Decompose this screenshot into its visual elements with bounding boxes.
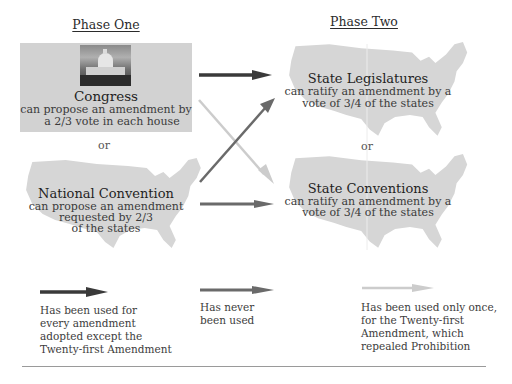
legend-medium-line: Has never — [200, 301, 300, 314]
legend-light-line: Has been used only once, — [361, 301, 511, 314]
legend-dark-line: adopted except the — [40, 330, 190, 343]
legend-arrow-medium — [200, 286, 274, 294]
legend-light-line: repealed Prohibition — [361, 340, 511, 353]
legend-light-line: for the Twenty-first — [361, 314, 511, 327]
arrow-convention-to-conventions — [200, 200, 274, 208]
legend-medium-text: Has never been used — [200, 301, 300, 327]
legend-arrow-dark — [40, 287, 108, 297]
legend-medium-line: been used — [200, 314, 300, 327]
bottom-divider — [22, 366, 486, 367]
legend-dark-line: every amendment — [40, 317, 190, 330]
legend-dark-line: Has been used for — [40, 304, 190, 317]
legend-dark-line: Twenty-first Amendment — [40, 343, 190, 356]
legend-light-text: Has been used only once, for the Twenty-… — [361, 301, 511, 353]
legend-light-line: Amendment, which — [361, 327, 511, 340]
arrow-congress-to-legislatures — [199, 70, 272, 80]
legend-arrow-light — [362, 284, 434, 292]
legend-dark-text: Has been used for every amendment adopte… — [40, 304, 190, 356]
